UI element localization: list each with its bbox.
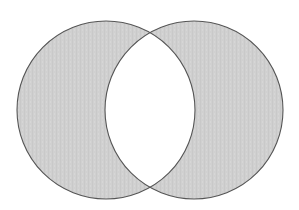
venn-svg <box>0 0 299 210</box>
symmetric-difference-region <box>17 21 283 199</box>
venn-diagram <box>0 0 299 210</box>
